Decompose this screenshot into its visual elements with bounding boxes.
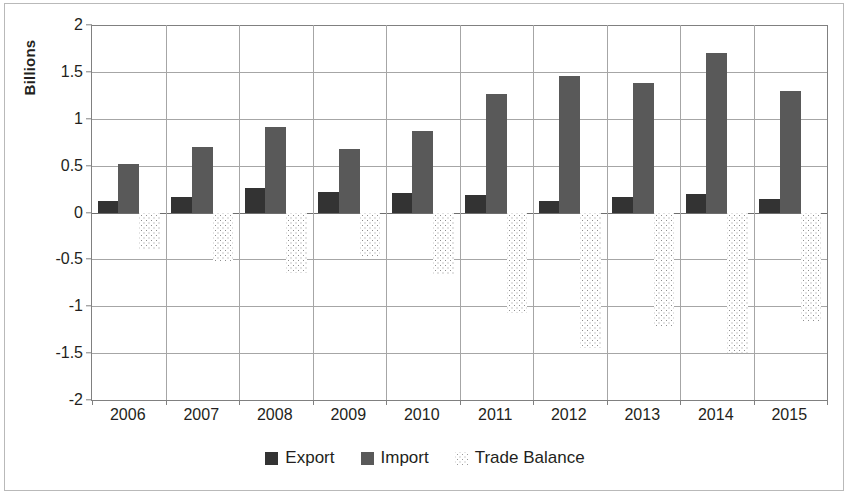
bar-import[interactable] xyxy=(265,127,286,212)
y-axis-tick-label: -1.5 xyxy=(55,344,83,362)
legend-item-label: Export xyxy=(285,448,334,468)
bar-export[interactable] xyxy=(465,195,486,213)
bar-export[interactable] xyxy=(392,193,413,213)
bar-export[interactable] xyxy=(318,192,339,213)
y-axis-tick-label: -2 xyxy=(69,391,83,409)
vertical-gridline xyxy=(827,25,828,400)
x-axis-tick-label: 2008 xyxy=(238,406,312,424)
legend-item[interactable]: Trade Balance xyxy=(455,448,585,468)
import-swatch-icon xyxy=(361,452,374,465)
bar-import[interactable] xyxy=(706,53,727,212)
bar-group xyxy=(680,25,754,400)
x-axis-tick-mark xyxy=(460,400,461,405)
bar-export[interactable] xyxy=(686,194,707,213)
x-axis-tick-label: 2015 xyxy=(753,406,827,424)
bar-trade-balance[interactable] xyxy=(433,213,454,275)
plot-area: 21.510.50-0.5-1-1.5-2 xyxy=(91,25,827,401)
bar-export[interactable] xyxy=(171,197,192,213)
bar-trade-balance[interactable] xyxy=(286,213,307,274)
y-axis-tick-label: -0.5 xyxy=(55,250,83,268)
bar-export[interactable] xyxy=(98,201,119,212)
y-axis-tick-label: 1.5 xyxy=(61,63,83,81)
x-axis-tick-label: 2011 xyxy=(459,406,533,424)
x-axis-tick-mark xyxy=(754,400,755,405)
legend-item-label: Import xyxy=(381,448,429,468)
bar-group xyxy=(386,25,460,400)
bar-group xyxy=(239,25,313,400)
y-axis-tick-label: -1 xyxy=(69,297,83,315)
x-axis-tick-mark xyxy=(607,400,608,405)
bar-trade-balance[interactable] xyxy=(580,213,601,349)
bar-export[interactable] xyxy=(539,201,560,212)
x-axis-tick-mark xyxy=(313,400,314,405)
x-axis-tick-mark xyxy=(166,400,167,405)
x-axis-tick-label: 2010 xyxy=(385,406,459,424)
x-axis-tick-label: 2006 xyxy=(91,406,165,424)
bar-trade-balance[interactable] xyxy=(727,213,748,354)
x-axis-tick-mark xyxy=(92,400,93,405)
x-axis-tick-label: 2014 xyxy=(679,406,753,424)
y-axis-tick-label: 0 xyxy=(74,204,83,222)
bar-import[interactable] xyxy=(559,76,580,213)
bar-export[interactable] xyxy=(612,197,633,213)
bar-group xyxy=(460,25,534,400)
x-axis-tick-label: 2012 xyxy=(532,406,606,424)
bar-trade-balance[interactable] xyxy=(213,213,234,263)
y-axis-tick-label: 0.5 xyxy=(61,157,83,175)
x-axis-tick-label: 2007 xyxy=(165,406,239,424)
chart-frame: Billions 21.510.50-0.5-1-1.5-2 200620072… xyxy=(4,3,844,491)
bar-trade-balance[interactable] xyxy=(801,213,822,322)
bar-group xyxy=(533,25,607,400)
bar-group xyxy=(754,25,828,400)
bar-group xyxy=(166,25,240,400)
trade-balance-swatch-icon xyxy=(455,452,468,465)
bar-trade-balance[interactable] xyxy=(139,213,160,251)
legend-item[interactable]: Import xyxy=(361,448,429,468)
y-axis-tick-label: 2 xyxy=(74,16,83,34)
y-axis-tick-label: 1 xyxy=(74,110,83,128)
bar-export[interactable] xyxy=(245,188,266,212)
x-axis-tick-mark xyxy=(680,400,681,405)
x-axis-tick-mark xyxy=(386,400,387,405)
x-axis-tick-mark xyxy=(239,400,240,405)
bar-import[interactable] xyxy=(339,149,360,213)
bar-import[interactable] xyxy=(633,83,654,212)
bar-import[interactable] xyxy=(780,91,801,213)
y-axis-title: Billions xyxy=(21,13,38,123)
legend-item-label: Trade Balance xyxy=(475,448,585,468)
export-swatch-icon xyxy=(265,452,278,465)
x-axis-tick-label: 2009 xyxy=(312,406,386,424)
bar-group xyxy=(92,25,166,400)
x-axis-tick-label: 2013 xyxy=(606,406,680,424)
x-axis-tick-mark xyxy=(533,400,534,405)
bar-import[interactable] xyxy=(118,164,139,213)
legend-item[interactable]: Export xyxy=(265,448,334,468)
bar-trade-balance[interactable] xyxy=(507,213,528,313)
bar-trade-balance[interactable] xyxy=(654,213,675,327)
bar-import[interactable] xyxy=(192,147,213,213)
bar-trade-balance[interactable] xyxy=(360,213,381,256)
bar-import[interactable] xyxy=(412,131,433,213)
chart-legend: ExportImportTrade Balance xyxy=(5,448,845,468)
x-axis-tick-mark xyxy=(827,400,828,405)
bar-import[interactable] xyxy=(486,94,507,212)
bar-group xyxy=(607,25,681,400)
bar-group xyxy=(313,25,387,400)
bar-export[interactable] xyxy=(759,199,780,212)
